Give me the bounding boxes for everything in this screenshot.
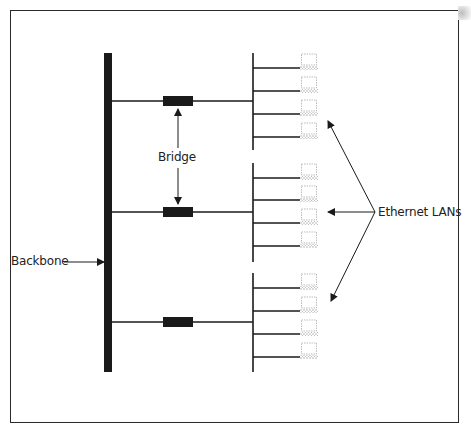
computer-icon (300, 186, 318, 202)
keyboard-icon (300, 176, 318, 180)
ethernet-lans-label: Ethernet LANs (378, 205, 461, 219)
lan-arrow-icon-3 (331, 212, 375, 301)
computer-icon (300, 54, 318, 70)
computer-icon (300, 320, 318, 336)
bridge-device-icon (163, 207, 193, 217)
lan-arrow-icon-1 (328, 121, 375, 212)
ethernet-lans (253, 53, 318, 372)
keyboard-icon (300, 332, 318, 336)
lan-segment (253, 273, 318, 372)
monitor-icon (302, 320, 317, 331)
keyboard-icon (300, 221, 318, 225)
monitor-icon (302, 343, 317, 354)
bridge-device-icon (163, 317, 193, 327)
monitor-icon (302, 186, 317, 197)
bridge-device-icon (163, 96, 193, 106)
lan-segment (253, 53, 318, 150)
keyboard-icon (300, 198, 318, 202)
keyboard-icon (300, 66, 318, 70)
keyboard-icon (300, 244, 318, 248)
monitor-icon (302, 297, 317, 308)
monitor-icon (302, 123, 317, 134)
monitor-icon (302, 232, 317, 243)
computer-icon (300, 232, 318, 248)
keyboard-icon (300, 355, 318, 359)
backbone-label: Backbone (11, 254, 68, 268)
computer-icon (300, 274, 318, 290)
keyboard-icon (300, 135, 318, 139)
keyboard-icon (300, 112, 318, 116)
monitor-icon (302, 77, 317, 88)
monitor-icon (302, 164, 317, 175)
computer-icon (300, 209, 318, 225)
keyboard-icon (300, 286, 318, 290)
computer-icon (300, 297, 318, 313)
monitor-icon (302, 274, 317, 285)
computer-icon (300, 77, 318, 93)
monitor-icon (302, 54, 317, 65)
computer-icon (300, 343, 318, 359)
monitor-icon (302, 209, 317, 220)
computer-icon (300, 164, 318, 180)
keyboard-icon (300, 309, 318, 313)
lan-segment (253, 163, 318, 262)
bridge-label: Bridge (158, 150, 196, 164)
monitor-icon (302, 100, 317, 111)
keyboard-icon (300, 89, 318, 93)
network-diagram (0, 0, 471, 438)
computer-icon (300, 123, 318, 139)
computer-icon (300, 100, 318, 116)
